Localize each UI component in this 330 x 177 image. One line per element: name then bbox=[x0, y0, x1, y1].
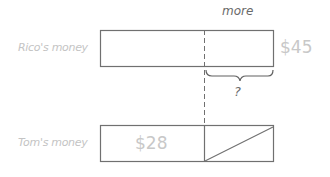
tom-bar bbox=[101, 126, 274, 162]
rico-bar bbox=[101, 31, 274, 67]
brace-icon bbox=[206, 70, 273, 81]
diagonal-shade-icon bbox=[205, 127, 273, 161]
more-label: more bbox=[222, 4, 253, 18]
rico-label: Rico's money bbox=[18, 41, 88, 54]
rico-value: $45 bbox=[280, 37, 312, 57]
unknown-marker: ? bbox=[234, 84, 241, 99]
tom-value: $28 bbox=[135, 133, 167, 153]
tom-label: Tom's money bbox=[18, 136, 87, 149]
